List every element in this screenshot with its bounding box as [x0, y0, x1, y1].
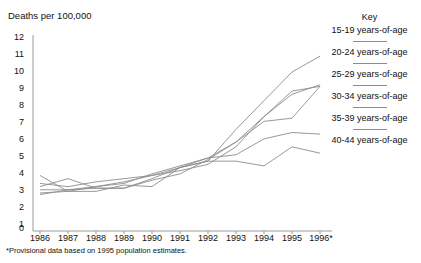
legend-line-sample-1: [318, 36, 421, 47]
series-lines: [40, 56, 320, 194]
chart-legend: Key 15-19 years-of-age 20-24 years-of-ag…: [318, 12, 421, 146]
legend-line-sample-3: [318, 80, 421, 91]
series-line-4: [40, 133, 320, 190]
series-line-3: [40, 86, 320, 188]
x-tick-label-1996: 1996*: [300, 234, 342, 243]
legend-line-sample-2: [318, 58, 421, 69]
legend-item-15-19: 15-19 years-of-age: [318, 25, 421, 36]
chart-figure: Deaths per 100,000 12 11 10 9 8 7 6 5 4 …: [0, 0, 421, 263]
legend-item-25-29: 25-29 years-of-age: [318, 69, 421, 80]
legend-title: Key: [318, 12, 421, 22]
legend-line-sample-4: [318, 102, 421, 113]
legend-line-sample-5: [318, 124, 421, 135]
chart-footnote: *Provisional data based on 1995 populati…: [6, 246, 187, 255]
legend-item-20-24: 20-24 years-of-age: [318, 47, 421, 58]
legend-item-35-39: 35-39 years-of-age: [318, 113, 421, 124]
axis-lines: [33, 35, 332, 231]
legend-item-30-34: 30-34 years-of-age: [318, 91, 421, 102]
series-line-2: [40, 86, 320, 193]
series-line-5: [40, 147, 320, 192]
legend-item-40-44: 40-44 years-of-age: [318, 135, 421, 146]
